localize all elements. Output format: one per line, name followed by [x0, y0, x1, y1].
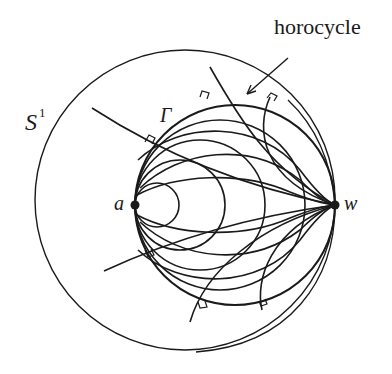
horocycle-label: horocycle — [274, 16, 361, 38]
horocycle-at-a-2 — [135, 160, 225, 250]
right-angle-marker — [198, 301, 207, 308]
diagram-canvas — [0, 0, 392, 374]
outer-circle-label: S1 — [25, 110, 46, 134]
outer-circle-symbol: S — [25, 109, 37, 135]
right-angle-marker — [200, 91, 209, 99]
point-w — [331, 201, 340, 210]
horocycle-at-a-1 — [135, 183, 179, 227]
point-a-label: a — [114, 193, 124, 213]
point-w-label: w — [344, 193, 357, 213]
horocycle-arrow-shaft — [247, 58, 288, 94]
horocycle-at-a-4 — [135, 120, 305, 290]
gamma-label: Γ — [160, 105, 171, 125]
geodesic-upper-6 — [140, 127, 335, 205]
outer-circle-s1 — [35, 50, 335, 350]
point-a — [131, 201, 140, 210]
outer-circle-superscript: 1 — [39, 105, 46, 120]
geodesic-upper-1 — [92, 108, 335, 205]
geodesic-lower-1 — [104, 205, 335, 271]
hyperbolic-disk-diagram: horocycle S1 Γ a w — [0, 0, 392, 374]
